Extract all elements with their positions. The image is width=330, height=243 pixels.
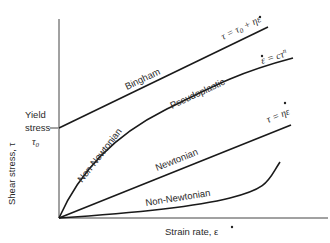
pseudoplastic-label: Pseudoplastic xyxy=(168,76,226,111)
dot-accent xyxy=(284,102,286,104)
newtonian-curve xyxy=(59,125,291,218)
y-axis-label: Shear stress, τ xyxy=(6,142,17,205)
rheology-diagram: Shear stress, τ Yield stress τ0 Bingham … xyxy=(0,0,330,243)
x-axis-label: Strain rate, ε xyxy=(165,226,219,237)
non-newtonian-lower-label: Non-Newtonian xyxy=(145,187,211,208)
newtonian-equation: τ = ηε xyxy=(265,106,292,125)
non-newtonian-upper-label: Non-Newtonian xyxy=(75,126,124,184)
dot-accent xyxy=(231,226,233,228)
dot-accent xyxy=(261,55,263,57)
dot-accent xyxy=(259,16,261,18)
yield-label-line1: Yield xyxy=(25,109,46,120)
bingham-curve xyxy=(59,27,268,128)
tau0-label: τ0 xyxy=(32,136,40,149)
newtonian-label: Newtonian xyxy=(154,146,200,173)
yield-label-line2: stress xyxy=(25,122,51,133)
